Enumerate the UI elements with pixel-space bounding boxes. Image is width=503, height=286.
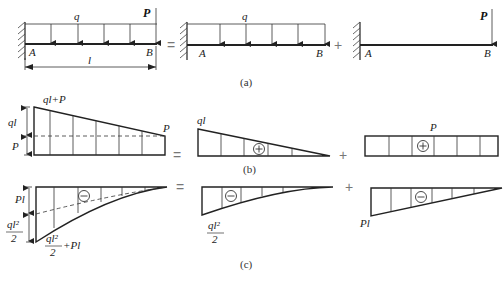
label-ql2-den: 2 xyxy=(212,233,218,245)
moment-diagram-distributed: ql² 2 xyxy=(202,187,333,245)
shear-diagram-total: ql+P ql P P xyxy=(8,93,170,155)
plus-sign: + xyxy=(339,147,347,163)
caption-a: (a) xyxy=(240,76,253,89)
label-ql-plus-P: ql+P xyxy=(43,93,66,105)
point-label-B: B xyxy=(484,47,491,59)
end-label-P: P xyxy=(162,122,170,134)
equals-sign: = xyxy=(173,147,181,163)
bottom-label-num: ql² xyxy=(46,232,59,244)
force-label-P: P xyxy=(480,9,488,23)
dim-label-Pl: Pl xyxy=(14,193,25,205)
caption-b: (b) xyxy=(243,163,256,176)
force-label-P: P xyxy=(143,6,151,20)
dim-label-ql2-num: ql² xyxy=(7,218,20,230)
shear-diagram-distributed: ql xyxy=(197,114,330,156)
plus-sign: + xyxy=(334,37,342,53)
distributed-load-arrows xyxy=(51,8,156,43)
moment-diagram-point: Pl xyxy=(359,188,502,229)
length-label-l: l xyxy=(88,54,91,66)
fixed-support-icon xyxy=(18,22,25,60)
equals-sign: = xyxy=(176,179,184,195)
point-label-A: A xyxy=(364,47,372,59)
dim-label-ql: ql xyxy=(8,116,17,128)
beam-full-load: q P A B l xyxy=(18,6,157,70)
dim-label-ql2-den: 2 xyxy=(11,232,17,244)
moment-diagram-total: Pl ql² 2 ql² 2 +Pl xyxy=(6,187,167,258)
shear-diagram-point: P xyxy=(365,121,498,156)
point-label-B: B xyxy=(146,46,153,58)
label-Pl: Pl xyxy=(359,217,370,229)
point-label-A: A xyxy=(28,46,36,58)
plus-sign: + xyxy=(345,179,353,195)
label-ql: ql xyxy=(197,114,206,126)
equals-sign: = xyxy=(167,37,175,53)
dim-label-P: P xyxy=(11,140,19,152)
fixed-support-icon xyxy=(180,22,187,60)
bottom-label-den: 2 xyxy=(50,246,56,258)
point-label-A: A xyxy=(198,47,206,59)
bottom-label-suffix: +Pl xyxy=(63,239,80,251)
beam-distributed-load: q A B xyxy=(180,10,326,60)
load-label-q: q xyxy=(242,10,248,22)
label-ql2-num: ql² xyxy=(208,219,221,231)
beam-point-load: P A B xyxy=(353,9,493,60)
caption-c: (c) xyxy=(240,258,253,271)
fixed-support-icon xyxy=(353,22,360,60)
beam-superposition-figure: q P A B l = q A B + xyxy=(0,0,503,286)
load-label-q: q xyxy=(74,10,80,22)
point-label-B: B xyxy=(316,47,323,59)
label-P: P xyxy=(429,121,437,133)
